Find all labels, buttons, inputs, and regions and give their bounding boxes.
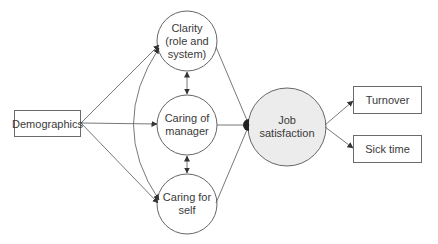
edge-job-turnover — [325, 101, 353, 125]
caring-manager-label: Caring of manager — [157, 105, 217, 145]
edge-demographics-caring-self — [81, 123, 158, 203]
demographics-node: Demographics — [14, 110, 81, 137]
caring-self-label: Caring for self — [157, 184, 217, 224]
edge-caring-self-job — [216, 125, 249, 203]
clarity-line2: (role and — [165, 35, 208, 48]
caring-self-line1: Caring for — [163, 191, 211, 204]
clarity-line1: Clarity — [171, 22, 202, 35]
job-satisfaction-line2: satisfaction — [259, 127, 314, 140]
turnover-label: Turnover — [366, 94, 410, 106]
arrowhead-cluster — [243, 119, 249, 131]
turnover-node: Turnover — [353, 86, 422, 114]
clarity-line3: system) — [168, 48, 207, 61]
edge-clarity-job — [216, 47, 249, 125]
caring-manager-line1: Caring of — [165, 112, 210, 125]
clarity-label: Clarity (role and system) — [157, 15, 217, 67]
job-satisfaction-label: Job satisfaction — [250, 107, 324, 147]
caring-manager-line2: manager — [165, 125, 208, 138]
edge-demographics-caring-manager — [81, 123, 157, 124]
job-satisfaction-line1: Job — [278, 114, 296, 127]
edge-demographics-clarity — [81, 45, 159, 123]
sick-time-label: Sick time — [365, 143, 410, 155]
caring-self-line2: self — [178, 204, 195, 217]
demographics-label: Demographics — [12, 118, 83, 130]
sick-time-node: Sick time — [353, 135, 422, 163]
edge-job-sick-time — [325, 127, 353, 148]
